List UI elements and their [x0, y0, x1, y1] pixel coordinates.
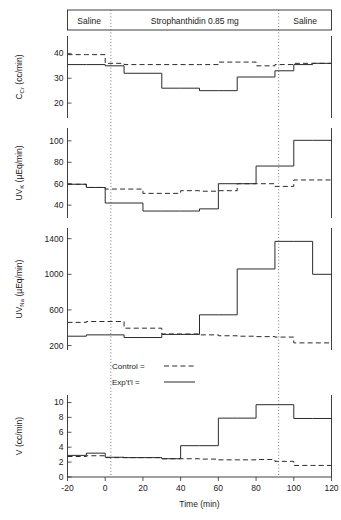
y-ticklabel-V-2: 2: [59, 457, 64, 467]
y-axis-title-UV_K: UVK (µEq/min): [14, 145, 25, 200]
y-ticklabel-UV_K-60: 60: [54, 179, 64, 189]
trace-C_Cr-Exptl: [68, 63, 332, 90]
y-axis-title-V: V (cc/min): [14, 417, 24, 455]
y-axis-title-UV_Na: UVNa (µEq/min): [14, 259, 25, 318]
y-ticklabel-C_Cr-30: 30: [54, 73, 64, 83]
y-ticklabel-V-4: 4: [59, 442, 64, 452]
banner-label-1: Strophanthidin 0.85 mg: [151, 16, 239, 26]
banner-label-2: Saline: [293, 16, 317, 26]
trace-UV_K-Control: [68, 180, 332, 193]
y-ticklabel-UV_Na-600: 600: [49, 305, 63, 315]
panel-UV_Na: 20060010001400UVNa (µEq/min): [14, 228, 332, 351]
y-ticklabel-UV_K-40: 40: [54, 200, 64, 210]
panel-C_Cr: 203040CCr (cc/min): [14, 36, 332, 118]
x-ticklabel-80: 80: [251, 483, 261, 493]
x-ticklabel-100: 100: [287, 483, 301, 493]
trace-UV_Na-Exptl: [68, 241, 332, 337]
x-ticklabel--20: -20: [61, 483, 74, 493]
y-ticklabel-V-8: 8: [59, 412, 64, 422]
y-ticklabel-V-6: 6: [59, 427, 64, 437]
x-ticklabel-20: 20: [138, 483, 148, 493]
trace-UV_K-Exptl: [68, 140, 332, 211]
trace-V-Exptl: [68, 405, 332, 459]
y-ticklabel-V-0: 0: [59, 472, 64, 482]
x-ticklabel-0: 0: [103, 483, 108, 493]
x-ticklabel-60: 60: [214, 483, 224, 493]
legend: Control =Exp't'l =: [112, 362, 195, 387]
banner-label-0: Saline: [77, 16, 101, 26]
y-ticklabel-UV_Na-1400: 1400: [45, 234, 64, 244]
y-ticklabel-UV_K-80: 80: [54, 157, 64, 167]
legend-label-1: Exp't'l =: [112, 378, 140, 387]
panel-UV_K: 406080100UVK (µEq/min): [14, 128, 332, 218]
legend-label-0: Control =: [112, 362, 145, 371]
treatment-banner: SalineStrophanthidin 0.85 mgSaline: [68, 10, 332, 30]
y-ticklabel-C_Cr-20: 20: [54, 98, 64, 108]
x-ticklabel-120: 120: [324, 483, 338, 493]
trace-C_Cr-Control: [68, 55, 332, 66]
multi-panel-chart: SalineStrophanthidin 0.85 mgSaline203040…: [0, 0, 341, 520]
x-axis-title: Time (min): [179, 499, 219, 509]
y-ticklabel-UV_Na-200: 200: [49, 341, 63, 351]
y-ticklabel-UV_K-100: 100: [49, 136, 63, 146]
y-ticklabel-C_Cr-40: 40: [54, 48, 64, 58]
y-axis-title-C_Cr: CCr (cc/min): [14, 54, 25, 99]
x-ticklabel-40: 40: [176, 483, 186, 493]
figure-root: SalineStrophanthidin 0.85 mgSaline203040…: [0, 0, 341, 520]
y-ticklabel-V-10: 10: [54, 397, 64, 407]
panel-V: 0246810-20020406080100120Time (min)V (cc…: [14, 395, 339, 509]
y-ticklabel-UV_Na-1000: 1000: [45, 269, 64, 279]
